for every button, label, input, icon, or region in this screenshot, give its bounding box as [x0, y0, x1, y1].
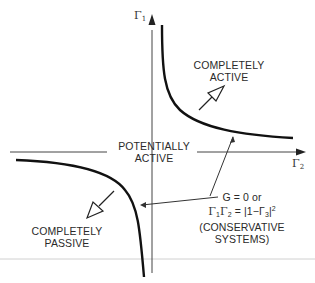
label-potentially-active: POTENTIALLY ACTIVE — [112, 140, 196, 164]
annotation-line-4: SYSTEMS) — [196, 233, 288, 245]
passive-direction-arrow-icon — [87, 191, 114, 218]
label-completely-active: COMPLETELY ACTIVE — [190, 59, 268, 83]
label-completely-passive: COMPLETELY PASSIVE — [28, 225, 106, 249]
annotation-formula: Γ1Γ2 = |1−Γ3|2 — [196, 203, 288, 221]
annotation-conservative-systems: G = 0 or Γ1Γ2 = |1−Γ3|2 (CONSERVATIVE SY… — [196, 191, 288, 245]
x-axis-label: Γ2 — [292, 158, 304, 173]
x-axis-arrowhead-icon — [296, 149, 306, 156]
active-direction-arrow-icon — [199, 86, 224, 110]
leader-arrowhead-lower-icon — [140, 202, 146, 208]
y-axis-arrowhead-icon — [149, 14, 156, 25]
y-axis-label: Γ1 — [134, 10, 146, 25]
annotation-line-1: G = 0 or — [196, 191, 288, 203]
annotation-line-3: (CONSERVATIVE — [196, 221, 288, 233]
leader-line-upper — [210, 137, 233, 196]
